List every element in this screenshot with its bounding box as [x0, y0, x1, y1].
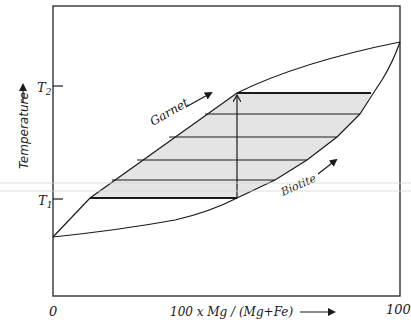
biotite-arrow	[318, 160, 336, 174]
garnet-arrow	[186, 93, 211, 107]
x-min-label: 0	[49, 304, 57, 319]
t1-label: T1	[38, 193, 52, 210]
garnet-label: Garnet	[148, 95, 192, 128]
t2-label: T2	[37, 80, 52, 97]
garnet-biotite-phase-diagram: T2 T1 Temperature 0 100 100 x Mg / (Mg+F…	[0, 0, 411, 326]
y-axis-label: Temperature	[17, 92, 31, 169]
two-phase-region	[90, 93, 371, 198]
y-axis-label-group: Temperature	[17, 92, 31, 169]
x-max-label: 100	[386, 302, 411, 317]
x-axis-label: 100 x Mg / (Mg+Fe)	[170, 305, 293, 319]
biotite-label: Biotite	[278, 172, 319, 200]
